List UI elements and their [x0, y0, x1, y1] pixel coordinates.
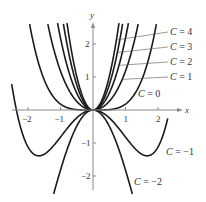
curve-label: C = 1 — [170, 71, 192, 82]
leader-line — [119, 62, 168, 65]
y-tick-label: 1 — [85, 72, 90, 82]
label-leader-lines — [116, 32, 168, 79]
x-axis-arrow-icon — [177, 108, 183, 112]
curve-label: C = 3 — [170, 41, 192, 52]
y-axis-arrow-icon — [91, 22, 95, 28]
leader-line — [122, 77, 168, 79]
leader-line — [117, 47, 168, 52]
curve-label: C = 2 — [170, 56, 192, 67]
y-axis-label: y — [89, 10, 94, 20]
curve-label: C = −1 — [166, 146, 194, 157]
x-tick-label: 1 — [124, 114, 129, 124]
y-tick-label: −1 — [81, 138, 91, 148]
x-tick-label: −1 — [55, 114, 65, 124]
x-axis-label: x — [184, 105, 189, 115]
curve-family — [12, 23, 168, 194]
x-tick-label: −2 — [22, 114, 32, 124]
curve-label: C = 4 — [170, 26, 192, 37]
x-tick-label: 2 — [156, 114, 161, 124]
y-tick-label: −2 — [81, 171, 91, 181]
y-axis: y — [89, 10, 95, 190]
chart: x y −2−112−2−112 C = 4C = 3C = 2C = 1C =… — [0, 0, 206, 202]
y-tick-label: 2 — [85, 39, 90, 49]
curve-label: C = 0 — [138, 88, 160, 99]
curve-label: C = −2 — [134, 176, 162, 187]
leader-line — [116, 32, 168, 40]
